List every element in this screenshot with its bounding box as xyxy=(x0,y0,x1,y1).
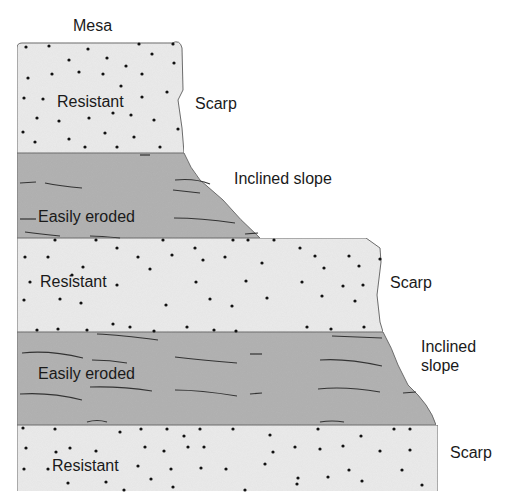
layer-1-label: Resistant xyxy=(57,92,124,111)
scarp-label-2: Scarp xyxy=(390,273,432,292)
scarp-label-3: Scarp xyxy=(450,443,492,462)
inclined-slope-label-2-line1: Inclined xyxy=(421,337,476,356)
inclined-slope-label-1: Inclined slope xyxy=(234,169,332,188)
layer-4-label: Easily eroded xyxy=(38,364,135,383)
layer-2-label: Easily eroded xyxy=(38,207,135,226)
inclined-slope-label-2: Inclined slope xyxy=(421,337,476,375)
mesa-cross-section xyxy=(0,0,516,503)
layer-5-label: Resistant xyxy=(52,456,119,475)
scarp-label-1: Scarp xyxy=(195,94,237,113)
inclined-slope-label-2-line2: slope xyxy=(421,356,476,375)
mesa-label: Mesa xyxy=(73,16,112,35)
layer-3-label: Resistant xyxy=(40,272,107,291)
